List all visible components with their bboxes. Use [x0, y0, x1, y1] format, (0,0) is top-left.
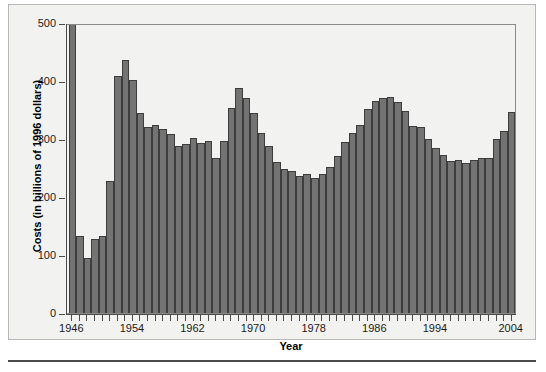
- x-tick-label: 1994: [415, 323, 455, 334]
- x-tick: [473, 315, 474, 321]
- x-tick-label: 1962: [173, 323, 213, 334]
- bar: [326, 167, 334, 313]
- bar: [379, 98, 387, 313]
- x-tick: [389, 315, 390, 321]
- bar: [500, 131, 508, 313]
- x-tick: [94, 315, 95, 321]
- x-tick-label: 1946: [51, 323, 91, 334]
- x-axis-title: Year: [66, 340, 516, 352]
- bar: [493, 139, 501, 313]
- x-tick: [139, 315, 140, 321]
- x-tick: [382, 315, 383, 321]
- x-tick-label: 1978: [294, 323, 334, 334]
- bar: [470, 160, 478, 313]
- x-tick: [109, 315, 110, 321]
- x-tick: [397, 315, 398, 321]
- bar: [265, 146, 273, 313]
- x-tick: [200, 315, 201, 321]
- x-tick: [155, 315, 156, 321]
- bar: [197, 143, 205, 313]
- x-tick: [177, 315, 178, 321]
- x-tick: [246, 315, 247, 321]
- x-tick: [329, 315, 330, 321]
- bar: [364, 109, 372, 313]
- x-tick: [238, 315, 239, 321]
- x-tick: [374, 315, 375, 321]
- bar: [447, 161, 455, 313]
- bar: [455, 160, 463, 313]
- bar: [425, 139, 433, 313]
- x-tick: [321, 315, 322, 321]
- bar: [167, 134, 175, 313]
- x-tick: [306, 315, 307, 321]
- x-tick: [162, 315, 163, 321]
- y-tick: [59, 82, 65, 83]
- x-tick: [253, 315, 254, 321]
- x-tick: [480, 315, 481, 321]
- y-tick-label: 0: [12, 308, 56, 319]
- bar: [129, 80, 137, 313]
- x-tick: [465, 315, 466, 321]
- x-tick: [427, 315, 428, 321]
- bar: [84, 258, 92, 313]
- bar: [485, 158, 493, 313]
- x-tick: [79, 315, 80, 321]
- bar: [137, 113, 145, 313]
- x-tick: [488, 315, 489, 321]
- y-tick-label: 500: [12, 18, 56, 29]
- x-tick: [86, 315, 87, 321]
- x-tick-label: 1954: [112, 323, 152, 334]
- x-tick: [367, 315, 368, 321]
- figure-container: 0100200300400500 19461954196219701978198…: [0, 0, 546, 372]
- x-tick: [124, 315, 125, 321]
- bar: [303, 174, 311, 313]
- x-tick-label: 2004: [491, 323, 531, 334]
- x-tick: [412, 315, 413, 321]
- x-tick: [405, 315, 406, 321]
- x-tick: [359, 315, 360, 321]
- bar: [99, 236, 107, 313]
- bar: [402, 111, 410, 313]
- x-tick: [503, 315, 504, 321]
- bar: [243, 98, 251, 313]
- x-tick: [185, 315, 186, 321]
- bar: [250, 113, 258, 313]
- x-tick: [511, 315, 512, 321]
- bar: [205, 141, 213, 313]
- y-axis: [66, 24, 67, 314]
- x-tick: [215, 315, 216, 321]
- bar: [462, 163, 470, 313]
- bar: [152, 125, 160, 313]
- x-tick: [170, 315, 171, 321]
- bar: [220, 141, 228, 313]
- y-tick: [59, 256, 65, 257]
- x-tick: [336, 315, 337, 321]
- y-tick: [59, 24, 65, 25]
- x-tick: [496, 315, 497, 321]
- x-tick: [102, 315, 103, 321]
- bar: [440, 155, 448, 313]
- x-tick: [223, 315, 224, 321]
- x-tick: [291, 315, 292, 321]
- bar: [296, 176, 304, 313]
- x-tick: [147, 315, 148, 321]
- x-tick: [117, 315, 118, 321]
- bar: [76, 236, 84, 313]
- bar: [319, 174, 327, 313]
- x-tick: [283, 315, 284, 321]
- x-tick: [314, 315, 315, 321]
- bar: [508, 112, 515, 313]
- x-tick: [261, 315, 262, 321]
- bar: [311, 178, 319, 313]
- x-tick: [132, 315, 133, 321]
- x-tick: [193, 315, 194, 321]
- bar: [235, 88, 243, 313]
- bar: [409, 126, 417, 313]
- bar: [334, 156, 342, 313]
- bar: [372, 101, 380, 313]
- bar: [281, 169, 289, 313]
- bar: [175, 146, 183, 313]
- x-tick: [435, 315, 436, 321]
- x-tick: [420, 315, 421, 321]
- figure-bottom-rule: [8, 360, 536, 362]
